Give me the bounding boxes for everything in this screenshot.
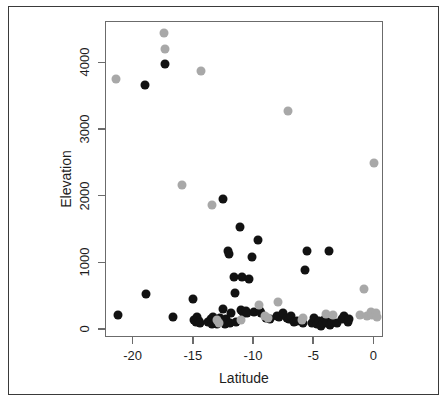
- x-tick-label: -5: [307, 348, 319, 363]
- data-point: [372, 312, 381, 321]
- y-axis-title: Elevation: [58, 150, 74, 208]
- y-tick-mark: [98, 262, 105, 263]
- data-point: [197, 66, 206, 75]
- data-point: [188, 295, 197, 304]
- x-tick-label: 0: [370, 348, 377, 363]
- x-tick-mark: [373, 337, 374, 344]
- scatter-plot-figure: Elevation Latitude 01000200030004000 -20…: [0, 0, 447, 408]
- data-point: [345, 315, 354, 324]
- data-point: [114, 311, 123, 320]
- data-point: [299, 314, 308, 323]
- x-tick-mark: [192, 337, 193, 344]
- data-point: [235, 223, 244, 232]
- data-point: [230, 288, 239, 297]
- data-point: [283, 107, 292, 116]
- data-point: [218, 194, 227, 203]
- data-point: [236, 316, 245, 325]
- x-tick-label: -15: [183, 348, 202, 363]
- data-point: [207, 200, 216, 209]
- x-tick-label: -20: [123, 348, 142, 363]
- data-point: [247, 253, 256, 262]
- data-point: [245, 274, 254, 283]
- x-tick-mark: [252, 337, 253, 344]
- data-point: [302, 247, 311, 256]
- y-tick-label: 4000: [77, 48, 92, 77]
- data-point: [111, 75, 120, 84]
- data-point: [141, 290, 150, 299]
- y-tick-mark: [98, 128, 105, 129]
- data-point: [160, 45, 169, 54]
- x-tick-label: -10: [244, 348, 263, 363]
- y-tick-label: 3000: [77, 115, 92, 144]
- data-point: [370, 159, 379, 168]
- plot-panel: [105, 21, 383, 337]
- data-point: [177, 180, 186, 189]
- data-point: [215, 318, 224, 327]
- data-point: [300, 266, 309, 275]
- data-point: [159, 29, 168, 38]
- data-point: [324, 246, 333, 255]
- data-point: [227, 309, 236, 318]
- data-point: [264, 313, 273, 322]
- y-tick-mark: [98, 195, 105, 196]
- x-axis-title: Latitude: [219, 370, 269, 386]
- data-point: [254, 301, 263, 310]
- data-point: [140, 80, 149, 89]
- data-point: [169, 313, 178, 322]
- y-tick-mark: [98, 328, 105, 329]
- data-point: [329, 310, 338, 319]
- data-point: [359, 284, 368, 293]
- data-point: [160, 60, 169, 69]
- y-tick-mark: [98, 62, 105, 63]
- data-points-layer: [106, 22, 382, 336]
- x-tick-mark: [132, 337, 133, 344]
- x-tick-mark: [312, 337, 313, 344]
- y-tick-label: 0: [77, 325, 92, 332]
- data-point: [274, 298, 283, 307]
- data-point: [253, 236, 262, 245]
- y-tick-label: 2000: [77, 181, 92, 210]
- data-point: [224, 250, 233, 259]
- y-tick-label: 1000: [77, 248, 92, 277]
